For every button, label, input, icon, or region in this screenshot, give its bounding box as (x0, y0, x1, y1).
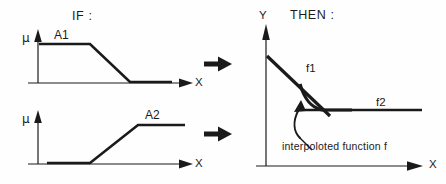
consequent-x-axis-arrowhead (407, 161, 423, 171)
premise2-plot (28, 110, 193, 168)
premise2-x-axis-arrowhead (179, 160, 193, 169)
premise1-y-axis-arrowhead (34, 29, 42, 42)
implication-arrow-2-icon (204, 127, 232, 142)
premise1-x-axis-arrowhead (179, 79, 193, 88)
implication-arrow-1-icon (204, 57, 232, 72)
premise1-membership-curve (39, 44, 172, 82)
premise1-plot (28, 29, 193, 87)
figure-canvas: IF : THEN : µ A1 X µ A2 X Y X f1 f2 inte… (0, 0, 446, 184)
premise2-y-axis-arrowhead (34, 110, 42, 123)
annotation-callout-arrow-icon (294, 100, 312, 150)
diagram-vectors (0, 0, 446, 184)
consequent-plot (256, 24, 423, 171)
consequent-y-axis-arrowhead (262, 24, 270, 40)
premise2-membership-curve (47, 125, 185, 163)
